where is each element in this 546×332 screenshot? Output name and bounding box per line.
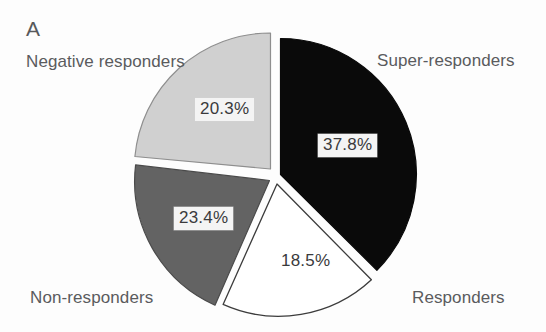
pie-chart bbox=[0, 0, 546, 332]
slice-value-responders: 18.5% bbox=[281, 251, 330, 271]
slice-label-negative-responders: Negative responders bbox=[26, 52, 185, 72]
slice-value-negative-responders: 20.3% bbox=[195, 98, 254, 121]
slice-label-super-responders: Super-responders bbox=[377, 51, 515, 71]
figure-panel-a: A Negative responders Super-responders N… bbox=[0, 0, 546, 332]
slice-label-non-responders: Non-responders bbox=[30, 288, 153, 308]
slice-value-non-responders: 23.4% bbox=[174, 207, 233, 230]
slice-label-responders: Responders bbox=[412, 288, 505, 308]
slice-value-super-responders: 37.8% bbox=[318, 134, 377, 157]
panel-letter: A bbox=[26, 17, 40, 41]
